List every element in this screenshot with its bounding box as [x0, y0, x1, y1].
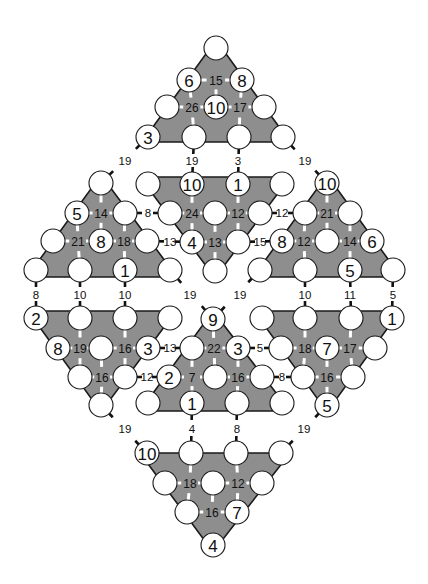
number-cell[interactable] [89, 336, 113, 360]
number-cell[interactable] [203, 201, 227, 225]
number-cell[interactable] [24, 258, 48, 282]
cell-circle[interactable] [225, 391, 249, 415]
number-cell[interactable] [269, 441, 293, 465]
cell-circle[interactable] [24, 258, 48, 282]
cell-circle[interactable] [153, 471, 177, 495]
number-cell[interactable] [341, 365, 365, 389]
cell-circle[interactable] [136, 391, 160, 415]
number-cell[interactable] [363, 336, 387, 360]
number-cell[interactable] [175, 500, 199, 524]
cell-circle[interactable] [291, 365, 315, 389]
cell-circle[interactable] [250, 471, 274, 495]
number-cell[interactable] [68, 365, 92, 389]
cell-circle[interactable] [270, 172, 294, 196]
number-cell[interactable]: 8 [230, 68, 254, 92]
number-cell[interactable] [41, 229, 65, 253]
number-cell[interactable] [248, 201, 272, 225]
cell-circle[interactable] [250, 306, 274, 330]
number-cell[interactable]: 10 [135, 441, 159, 465]
number-cell[interactable]: 10 [180, 172, 204, 196]
cell-circle[interactable] [204, 36, 228, 60]
number-cell[interactable]: 4 [201, 533, 225, 557]
number-cell[interactable]: 8 [89, 229, 113, 253]
number-cell[interactable] [158, 306, 182, 330]
number-cell[interactable] [293, 258, 317, 282]
cell-circle[interactable] [338, 201, 362, 225]
number-cell[interactable] [338, 201, 362, 225]
number-cell[interactable] [158, 258, 182, 282]
number-cell[interactable] [158, 201, 182, 225]
number-cell[interactable] [179, 441, 203, 465]
cell-circle[interactable] [250, 365, 274, 389]
cell-circle[interactable] [203, 365, 227, 389]
number-cell[interactable] [270, 172, 294, 196]
number-cell[interactable] [68, 258, 92, 282]
cell-circle[interactable] [89, 171, 113, 195]
cell-circle[interactable] [113, 201, 137, 225]
number-cell[interactable] [203, 365, 227, 389]
number-cell[interactable]: 4 [180, 230, 204, 254]
number-cell[interactable] [113, 201, 137, 225]
number-cell[interactable] [201, 471, 225, 495]
cell-circle[interactable] [269, 336, 293, 360]
number-cell[interactable] [89, 393, 113, 417]
number-cell[interactable]: 8 [46, 336, 70, 360]
number-cell[interactable] [270, 391, 294, 415]
cell-circle[interactable] [248, 201, 272, 225]
cell-circle[interactable] [293, 306, 317, 330]
number-cell[interactable] [250, 365, 274, 389]
number-cell[interactable]: 10 [204, 95, 228, 119]
number-cell[interactable] [227, 125, 251, 149]
number-cell[interactable]: 6 [360, 229, 384, 253]
cell-circle[interactable] [203, 201, 227, 225]
cell-circle[interactable] [381, 258, 405, 282]
number-cell[interactable] [155, 95, 179, 119]
number-cell[interactable] [180, 336, 204, 360]
cell-circle[interactable] [293, 201, 317, 225]
cell-circle[interactable] [135, 229, 159, 253]
cell-circle[interactable] [270, 391, 294, 415]
cell-circle[interactable] [136, 172, 160, 196]
cell-circle[interactable] [339, 306, 363, 330]
number-cell[interactable]: 9 [201, 307, 225, 331]
number-cell[interactable] [293, 306, 317, 330]
number-cell[interactable] [291, 365, 315, 389]
number-cell[interactable] [182, 125, 206, 149]
cell-circle[interactable] [226, 230, 250, 254]
number-cell[interactable] [252, 95, 276, 119]
number-cell[interactable] [250, 306, 274, 330]
number-cell[interactable]: 3 [226, 336, 250, 360]
cell-circle[interactable] [68, 306, 92, 330]
number-cell[interactable]: 7 [225, 500, 249, 524]
number-cell[interactable] [293, 201, 317, 225]
number-cell[interactable]: 2 [24, 306, 48, 330]
number-cell[interactable] [203, 259, 227, 283]
number-cell[interactable] [250, 471, 274, 495]
cell-circle[interactable] [180, 336, 204, 360]
cell-circle[interactable] [341, 365, 365, 389]
number-cell[interactable]: 6 [177, 68, 201, 92]
number-cell[interactable]: 8 [270, 229, 294, 253]
number-cell[interactable] [271, 125, 295, 149]
number-cell[interactable] [269, 336, 293, 360]
number-cell[interactable]: 1 [113, 258, 137, 282]
number-cell[interactable]: 5 [315, 393, 339, 417]
cell-circle[interactable] [293, 258, 317, 282]
cell-circle[interactable] [315, 229, 339, 253]
number-cell[interactable]: 1 [226, 172, 250, 196]
number-cell[interactable] [381, 258, 405, 282]
number-cell[interactable]: 5 [65, 201, 89, 225]
number-cell[interactable] [225, 391, 249, 415]
cell-circle[interactable] [175, 500, 199, 524]
cell-circle[interactable] [248, 258, 272, 282]
cell-circle[interactable] [158, 306, 182, 330]
number-cell[interactable]: 2 [157, 365, 181, 389]
cell-circle[interactable] [158, 201, 182, 225]
cell-circle[interactable] [271, 125, 295, 149]
cell-circle[interactable] [113, 365, 137, 389]
number-cell[interactable]: 1 [180, 391, 204, 415]
number-cell[interactable]: 3 [136, 336, 160, 360]
number-cell[interactable]: 3 [136, 125, 160, 149]
cell-circle[interactable] [224, 441, 248, 465]
cell-circle[interactable] [363, 336, 387, 360]
